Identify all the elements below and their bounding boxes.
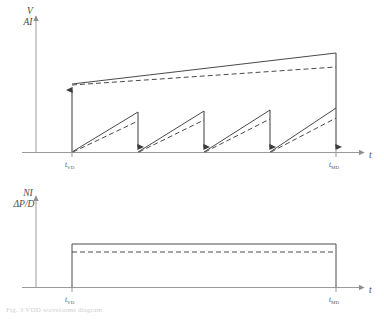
- sawtooth-dashed-2: [139, 120, 204, 152]
- lower-tick-label-start: tVD: [65, 295, 75, 305]
- sawtooth-solid-3: [204, 110, 270, 152]
- upper-tick-label-end: tMD: [329, 160, 340, 170]
- upper-y-label-line2: AI: [23, 17, 34, 27]
- lower-y-label-line2: ΔP/D: [13, 199, 35, 209]
- lower-tick-label-end: tMD: [329, 295, 340, 305]
- upper-x-label: t: [369, 150, 372, 160]
- figure-caption: Fig. 3 VDD waveforms diagram: [6, 306, 102, 314]
- sawtooth-solid-1: [72, 112, 138, 152]
- upper-plot: V AI t tVD tMD: [22, 6, 372, 170]
- lower-plot: NI ΔP/D t tVD tMD: [13, 188, 372, 305]
- lower-y-label-line1: NI: [22, 188, 33, 198]
- upper-y-label-line1: V: [27, 6, 34, 16]
- sawtooth-solid-4: [270, 108, 336, 152]
- pulse-solid-outline: [72, 244, 336, 288]
- waveform-figure: V AI t tVD tMD: [0, 0, 384, 320]
- lower-x-label: t: [369, 285, 372, 295]
- sawtooth-dashed-1: [73, 121, 138, 152]
- upper-envelope-solid: [72, 53, 336, 84]
- upper-envelope-dashed: [72, 67, 336, 85]
- sawtooth-solid-2: [138, 111, 204, 152]
- sawtooth-dashed-3: [205, 119, 270, 152]
- upper-tick-label-start: tVD: [65, 160, 75, 170]
- sawtooth-dashed-4: [271, 118, 336, 152]
